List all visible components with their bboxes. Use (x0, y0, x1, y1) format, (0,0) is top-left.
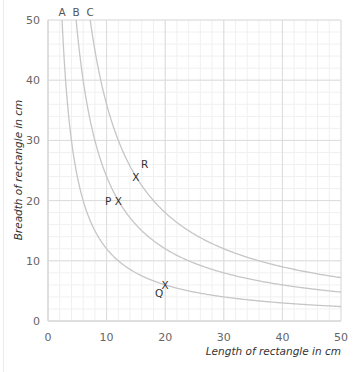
point-label: R (141, 158, 148, 170)
x-tick-label: 30 (217, 331, 231, 344)
y-tick-label: 0 (33, 315, 40, 328)
point-marker: X (115, 195, 122, 207)
y-tick-label: 50 (26, 14, 40, 27)
y-tick-label: 30 (26, 134, 40, 147)
x-tick-label: 0 (45, 331, 52, 344)
y-axis-label: Breadth of rectangle in cm (12, 100, 24, 241)
x-tick-label: 20 (158, 331, 172, 344)
chart: ABC XPXQXR 0102030405001020304050 Length… (0, 0, 355, 372)
curve-a (62, 20, 341, 307)
minor-grid (48, 20, 341, 321)
y-tick-label: 20 (26, 195, 40, 208)
curve-label-b: B (73, 6, 80, 18)
point-label: Q (155, 287, 163, 299)
point-r: XR (132, 158, 148, 183)
x-tick-label: 10 (100, 331, 114, 344)
curve-b (76, 20, 341, 292)
y-tick-label: 10 (26, 255, 40, 268)
major-grid (48, 20, 341, 321)
curve-label-a: A (58, 6, 66, 18)
curve-label-c: C (87, 6, 94, 18)
axes (48, 20, 341, 321)
curve-labels: ABC (58, 6, 93, 18)
points: XPXQXR (105, 158, 169, 299)
point-label: P (105, 195, 111, 207)
curves (62, 20, 341, 307)
x-tick-label: 40 (275, 331, 289, 344)
x-tick-label: 50 (334, 331, 348, 344)
point-marker: X (132, 171, 139, 183)
curve-c (90, 20, 341, 278)
x-axis-label: Length of rectangle in cm (206, 345, 341, 357)
y-tick-label: 40 (26, 74, 40, 87)
tick-labels: 0102030405001020304050 (26, 14, 348, 344)
